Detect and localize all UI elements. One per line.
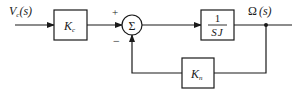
block-plant: 1 SJ <box>201 10 234 40</box>
block-kc: Kc <box>54 10 87 40</box>
block-diagram: Vc(s) Kc + − Σ 1 SJ Ω(s) Kn <box>0 0 305 106</box>
minus-sign: − <box>113 34 120 48</box>
output-label: Ω(s) <box>248 4 272 18</box>
block-kn: Kn <box>182 58 214 88</box>
plant-denominator: SJ <box>211 26 224 38</box>
input-label: Vc(s) <box>9 4 32 19</box>
plus-sign: + <box>112 6 118 18</box>
feedback-arrow <box>132 35 182 73</box>
sigma-symbol: Σ <box>129 19 136 33</box>
summing-junction: Σ <box>122 15 142 35</box>
plant-numerator: 1 <box>215 12 221 24</box>
